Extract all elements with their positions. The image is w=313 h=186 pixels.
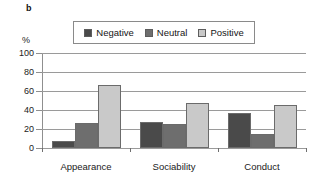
- legend-swatch-neutral: [145, 29, 153, 37]
- legend-item-negative[interactable]: Negative: [84, 28, 134, 38]
- x-axis-tick: [42, 148, 43, 152]
- legend-label-neutral: Neutral: [157, 28, 188, 38]
- gridline: [42, 148, 306, 149]
- x-axis-tick: [130, 148, 131, 152]
- y-axis-tick-label: 60: [24, 87, 34, 96]
- legend-item-neutral[interactable]: Neutral: [145, 28, 188, 38]
- y-axis-tick-label: 40: [24, 106, 34, 115]
- y-axis-tick-label: 80: [24, 68, 34, 77]
- bar-appearance-negative: [52, 141, 75, 148]
- bar-appearance-neutral: [75, 123, 98, 148]
- gridline: [42, 53, 306, 54]
- legend-swatch-positive: [198, 29, 206, 37]
- gridline: [42, 72, 306, 73]
- chart-legend: Negative Neutral Positive: [73, 21, 255, 44]
- gridline: [42, 110, 306, 111]
- x-axis-tick: [218, 148, 219, 152]
- y-axis-tick: [36, 129, 42, 130]
- y-axis-tick: [36, 91, 42, 92]
- y-axis-tick: [36, 72, 42, 73]
- x-axis-category-label: Appearance: [42, 162, 130, 172]
- plot-area: [42, 53, 306, 148]
- y-axis-tick-label: 0: [29, 144, 34, 153]
- x-axis-tick: [306, 148, 307, 152]
- y-axis-tick: [36, 148, 42, 149]
- y-axis-tick-label: 20: [24, 125, 34, 134]
- bar-appearance-positive: [98, 85, 121, 148]
- legend-label-negative: Negative: [96, 28, 134, 38]
- y-axis-tick: [36, 110, 42, 111]
- bar-conduct-negative: [228, 113, 251, 148]
- bar-sociability-negative: [140, 122, 163, 148]
- y-axis-tick-label: 100: [19, 49, 34, 58]
- gridline: [42, 91, 306, 92]
- bar-sociability-neutral: [163, 124, 186, 148]
- legend-item-positive[interactable]: Positive: [198, 28, 243, 38]
- y-axis-tick: [36, 53, 42, 54]
- bar-conduct-positive: [274, 105, 297, 148]
- bar-sociability-positive: [186, 103, 209, 148]
- bar-conduct-neutral: [251, 134, 274, 148]
- x-axis-category-label: Conduct: [218, 162, 306, 172]
- x-axis-category-label: Sociability: [130, 162, 218, 172]
- legend-label-positive: Positive: [210, 28, 243, 38]
- y-axis-labels: 020406080100: [0, 0, 34, 186]
- legend-swatch-negative: [84, 29, 92, 37]
